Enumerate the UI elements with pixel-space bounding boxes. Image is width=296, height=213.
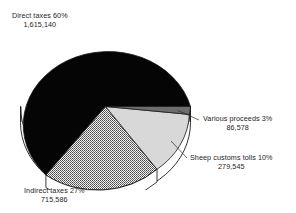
- slice-label-direct-taxes: Direct taxes 60% 1,615,140: [12, 11, 68, 29]
- slice-label-indirect-taxes-value: 715,586: [24, 195, 85, 204]
- slice-label-various-proceeds: Various proceeds 3% 86,578: [203, 114, 272, 132]
- slice-label-sheep-customs-tolls-value: 279,545: [190, 162, 273, 171]
- slice-label-direct-taxes-name: Direct taxes 60%: [12, 11, 68, 20]
- slice-label-sheep-customs-tolls: Sheep customs tolls 10% 279,545: [190, 153, 273, 171]
- slice-label-indirect-taxes-name: Indirect taxes 27%: [24, 186, 85, 195]
- slice-label-indirect-taxes: Indirect taxes 27% 715,586: [24, 186, 85, 204]
- slice-label-sheep-customs-tolls-name: Sheep customs tolls 10%: [190, 153, 273, 162]
- pie-chart-figure: Direct taxes 60% 1,615,140 Indirect taxe…: [0, 0, 296, 213]
- pie-chart-graphic: [0, 0, 296, 213]
- slice-label-various-proceeds-value: 86,578: [203, 123, 272, 132]
- slice-label-direct-taxes-value: 1,615,140: [12, 20, 68, 29]
- slice-label-various-proceeds-name: Various proceeds 3%: [203, 114, 272, 123]
